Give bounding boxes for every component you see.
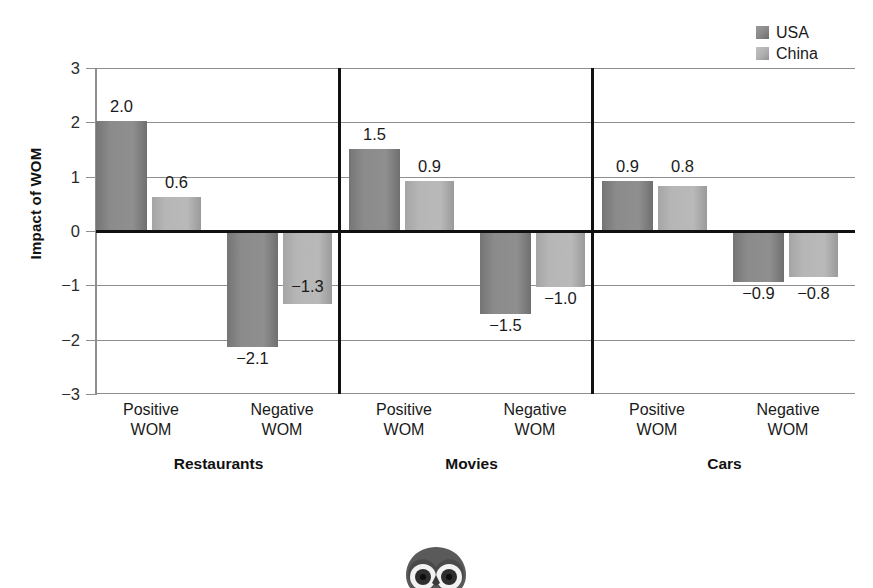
x-label-line1: Positive — [96, 400, 206, 420]
value-label-restaurants-positive-china: 0.6 — [151, 173, 202, 192]
value-label-restaurants-positive-usa: 2.0 — [95, 97, 148, 116]
group-label-movies: Movies — [404, 455, 539, 473]
x-label-line1: Positive — [602, 400, 712, 420]
bar-movies-positive-usa[interactable] — [349, 149, 400, 230]
y-tick-dash-m2 — [86, 340, 95, 341]
group-label-restaurants: Restaurants — [151, 455, 286, 473]
x-label-line2: WOM — [96, 420, 206, 440]
x-label-movies-positive: Positive WOM — [349, 400, 459, 440]
value-label-cars-negative-china: −0.8 — [788, 284, 839, 303]
legend-label-china: China — [776, 45, 818, 63]
bar-restaurants-positive-usa[interactable] — [96, 121, 147, 230]
y-axis-title: Impact of WOM — [27, 129, 44, 279]
value-label-movies-positive-china: 0.9 — [404, 157, 455, 176]
plot-area: 2.0 0.6 −2.1 −1.3 1.5 0.9 −1.5 −1.0 0.9 … — [96, 68, 855, 394]
value-label-restaurants-negative-usa: −2.1 — [226, 349, 279, 368]
bar-restaurants-positive-china[interactable] — [152, 197, 201, 230]
y-tick-dash-m1 — [86, 285, 95, 286]
bar-chart: Impact of WOM 3 2 1 0 −1 −2 −3 2.0 0.6 −… — [0, 0, 873, 500]
value-label-cars-negative-usa: −0.9 — [732, 284, 785, 303]
value-label-cars-positive-usa: 0.9 — [601, 157, 654, 176]
legend: USA China — [756, 22, 866, 64]
legend-swatch-usa-icon — [756, 26, 769, 39]
value-label-cars-positive-china: 0.8 — [657, 157, 708, 176]
gridline-1 — [96, 177, 855, 178]
owl-icon — [403, 545, 469, 588]
y-tick-label-minus1: −1 — [38, 276, 80, 295]
y-tick-label-0: 0 — [38, 222, 80, 241]
gridline-2 — [96, 122, 855, 123]
legend-swatch-china-icon — [756, 47, 769, 60]
y-tick-dash-1 — [86, 177, 95, 178]
y-tick-label-minus3: −3 — [38, 385, 80, 404]
y-tick-dash-m3 — [86, 394, 95, 395]
value-label-movies-positive-usa: 1.5 — [348, 125, 401, 144]
bar-cars-negative-usa[interactable] — [733, 233, 784, 282]
bar-cars-positive-usa[interactable] — [602, 181, 653, 230]
legend-item-china[interactable]: China — [756, 43, 866, 64]
y-tick-label-1: 1 — [38, 168, 80, 187]
x-label-line1: Negative — [733, 400, 843, 420]
bar-cars-positive-china[interactable] — [658, 186, 707, 230]
value-label-movies-negative-usa: −1.5 — [479, 316, 532, 335]
y-tick-label-2: 2 — [38, 113, 80, 132]
panel-divider-movies-cars — [591, 68, 594, 394]
x-label-line2: WOM — [733, 420, 843, 440]
y-tick-dash-3 — [86, 68, 95, 69]
x-label-line2: WOM — [349, 420, 459, 440]
x-label-restaurants-positive: Positive WOM — [96, 400, 206, 440]
x-label-restaurants-negative: Negative WOM — [227, 400, 337, 440]
y-tick-dash-2 — [86, 122, 95, 123]
x-label-line2: WOM — [227, 420, 337, 440]
group-label-cars: Cars — [657, 455, 792, 473]
value-label-movies-negative-china: −1.0 — [535, 289, 586, 308]
x-label-line1: Positive — [349, 400, 459, 420]
y-tick-label-3: 3 — [38, 59, 80, 78]
bar-cars-negative-china[interactable] — [789, 233, 838, 277]
bar-movies-negative-china[interactable] — [536, 233, 585, 287]
bar-movies-positive-china[interactable] — [405, 181, 454, 230]
gridline-minus3 — [96, 393, 855, 394]
bar-restaurants-negative-usa[interactable] — [227, 233, 278, 347]
bar-movies-negative-usa[interactable] — [480, 233, 531, 314]
x-label-line2: WOM — [480, 420, 590, 440]
gridline-minus2 — [96, 340, 855, 341]
owl-logo-watermark — [403, 545, 469, 588]
value-label-restaurants-negative-china: −1.3 — [282, 277, 333, 296]
legend-label-usa: USA — [776, 24, 809, 42]
x-label-movies-negative: Negative WOM — [480, 400, 590, 440]
panel-divider-restaurants-movies — [338, 68, 341, 394]
x-label-cars-positive: Positive WOM — [602, 400, 712, 440]
gridline-3 — [96, 68, 855, 69]
x-label-line1: Negative — [480, 400, 590, 420]
x-label-line2: WOM — [602, 420, 712, 440]
legend-item-usa[interactable]: USA — [756, 22, 866, 43]
x-label-cars-negative: Negative WOM — [733, 400, 843, 440]
x-label-line1: Negative — [227, 400, 337, 420]
y-tick-label-minus2: −2 — [38, 331, 80, 350]
y-tick-dash-0 — [86, 231, 95, 232]
